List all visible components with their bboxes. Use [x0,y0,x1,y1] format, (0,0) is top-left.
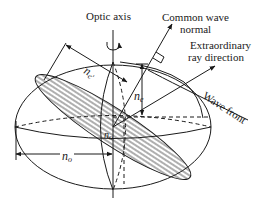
index-ellipsoid-diagram: Optic axis Common wave normal Extraordin… [0,0,268,212]
extraordinary-ray-label-line2: ray direction [188,52,244,63]
ne-sub: e [140,95,144,104]
no-center-sub: o [109,133,113,142]
common-wave-normal-label-line1: Common wave [162,12,229,23]
ne-prime-dimension [66,45,127,82]
no-bottom-label: no [60,150,74,164]
ne-label: ne [134,90,144,104]
ne-prime-extension [44,43,66,80]
common-wave-normal-label-line2: normal [180,24,211,35]
tangent-curve [120,62,203,118]
no-center-label: no [104,130,113,142]
optic-axis-label: Optic axis [86,11,131,22]
no-bottom-sub: o [68,155,72,164]
extraordinary-ray-label-line1: Extraordinary [190,40,251,51]
